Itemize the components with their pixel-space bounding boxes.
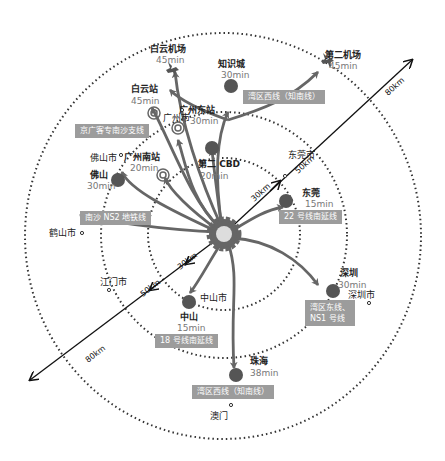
label-second-cbd: 第二 CBD [198,159,240,169]
label-heshan-city: 鹤山市 [49,228,76,238]
time-baiyun-airport: 45min [156,55,184,65]
node-zhishicheng [224,79,238,93]
label-macau: 澳门 [210,411,228,421]
label-foshan-city: 佛山市 [90,153,117,163]
label-zhongshan: 中山 [180,312,198,322]
time-zhuhai: 38min [250,368,278,378]
node-dongguan [279,194,293,208]
time-guangzhou-south: 20min [130,163,158,173]
km-30-sw: 30km [176,250,200,271]
time-baiyun-station: 45min [131,96,159,106]
tag-line-22-south: 22 号线南延线 [279,210,342,224]
tag-bay-west-line-bottom: 湾区西线（知南线） [192,385,274,399]
label-shenzhen-city: 深圳市 [348,290,375,300]
transit-radial-diagram: 30km 50km 80km 30km 50km 80km [0,0,445,461]
label-zhuhai: 珠海 [250,356,268,366]
time-second-cbd: 20min [200,171,228,181]
airplane-icons [166,53,334,77]
tag-line-18-south: 18 号线南延线 [155,334,218,348]
km-80-sw: 80km [84,343,108,364]
tag-bay-east-line: 湾区东线、 NS1 号线 [305,300,355,326]
tag-bay-east-line-2: NS1 号线 [310,313,350,324]
time-dongguan: 15min [305,199,333,209]
tag-bay-west-line-top: 湾区西线（知南线） [243,90,325,104]
label-baiyun-airport: 白云机场 [150,44,186,54]
label-baiyun-station: 白云站 [131,84,158,94]
tag-nansha-ns2: 南沙 NS2 地铁线 [80,211,151,225]
label-foshan: 佛山 [90,170,108,180]
time-guangzhou-east: 30min [190,116,218,126]
label-zhishicheng: 知识城 [218,59,245,69]
node-second-cbd [205,141,219,155]
label-zhongshan-city: 中山市 [200,293,227,303]
tag-bay-east-line-1: 湾区东线、 [310,302,350,313]
tag-jinggang-branch: 京广客专南沙支线 [75,124,149,138]
time-zhishicheng: 30min [221,70,249,80]
label-guangzhou-south: 广州南站 [124,152,160,162]
km-80-ne: 80km [383,76,406,98]
label-jiangmen-city: 江门市 [100,277,127,287]
train-station-icon-guangzhou-east [172,122,184,134]
time-foshan: 30min [87,181,115,191]
time-shenzhen: 30min [338,280,366,290]
node-zhongshan [182,295,196,309]
label-dongguan: 东莞 [302,188,320,198]
label-guangzhou-city: 广州市 [163,113,190,123]
time-zhongshan: 15min [177,323,205,333]
label-shenzhen: 深圳 [340,268,358,278]
km-50-sw: 50km [139,277,163,298]
train-station-icon-guangzhou-south [157,169,169,181]
label-second-airport: 第二机场 [325,50,361,60]
node-zhuhai [229,368,243,382]
hub-nansha [209,219,239,249]
label-dongguan-city: 东莞市 [288,150,315,160]
time-second-airport: 45min [329,61,357,71]
